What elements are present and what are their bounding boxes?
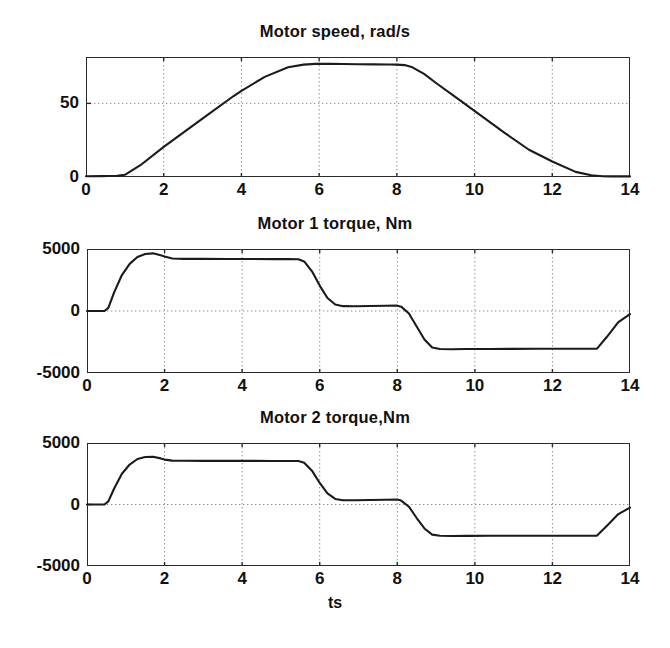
- x-tick-label: 6: [315, 376, 324, 396]
- x-tick-label: 12: [543, 569, 562, 589]
- plot-title-motor-speed: Motor speed, rad/s: [0, 22, 670, 41]
- x-tick-label: 0: [82, 376, 91, 396]
- x-tick-label: 12: [543, 376, 562, 396]
- x-tick-label: 4: [237, 569, 246, 589]
- x-tick-label: 12: [543, 180, 562, 200]
- x-tick-label: 0: [82, 569, 91, 589]
- data-series-0: [87, 253, 630, 349]
- x-axis-label: ts: [0, 594, 670, 612]
- y-tick-label: 0: [70, 167, 79, 187]
- data-series-0: [87, 457, 630, 536]
- x-tick-label: 8: [393, 376, 402, 396]
- x-tick-label: 14: [621, 180, 640, 200]
- plot-title-motor-2-torque: Motor 2 torque,Nm: [0, 408, 670, 427]
- y-tick-label: 50: [60, 93, 79, 113]
- x-tick-label: 10: [465, 180, 484, 200]
- plot-canvas-motor-2-torque: [87, 443, 630, 566]
- x-tick-label: 2: [160, 376, 169, 396]
- x-tick-label: 2: [159, 180, 168, 200]
- plot-title-motor-1-torque: Motor 1 torque, Nm: [0, 214, 670, 233]
- x-tick-label: 8: [393, 569, 402, 589]
- x-tick-label: 6: [314, 180, 323, 200]
- x-tick-label: 6: [315, 569, 324, 589]
- x-tick-label: 4: [237, 376, 246, 396]
- plot-canvas-motor-speed: [86, 57, 630, 177]
- x-tick-label: 0: [81, 180, 90, 200]
- y-tick-label: -5000: [37, 363, 80, 383]
- x-tick-label: 4: [237, 180, 246, 200]
- data-series-0: [86, 64, 630, 177]
- matlab-figure-window: Motor speed, rad/s 050 02468101214 Motor…: [0, 0, 670, 648]
- x-tick-label: 14: [621, 569, 640, 589]
- x-tick-label: 14: [621, 376, 640, 396]
- y-tick-label: 5000: [42, 239, 80, 259]
- x-tick-label: 8: [392, 180, 401, 200]
- y-tick-label: -5000: [37, 556, 80, 576]
- y-tick-label: 5000: [42, 433, 80, 453]
- plot-canvas-motor-1-torque: [87, 249, 630, 373]
- x-tick-label: 10: [465, 376, 484, 396]
- x-tick-label: 2: [160, 569, 169, 589]
- y-tick-label: 0: [71, 495, 80, 515]
- x-tick-label: 10: [465, 569, 484, 589]
- y-tick-label: 0: [71, 301, 80, 321]
